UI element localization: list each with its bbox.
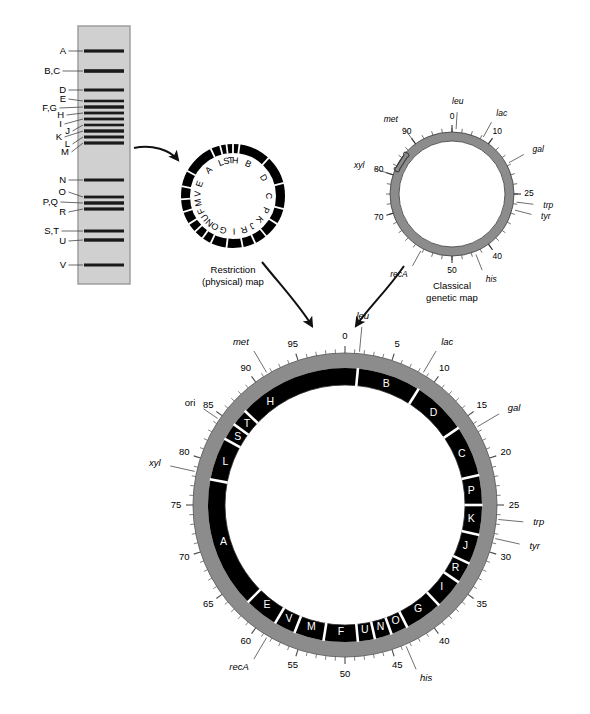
restriction-map-caption-line1: Restriction bbox=[211, 264, 256, 275]
genetic-gene-leader bbox=[476, 254, 482, 270]
restriction-fragment-label: H bbox=[232, 155, 239, 165]
integrated-black-inner-edge bbox=[225, 385, 465, 625]
integrated-gene-leader bbox=[478, 414, 500, 427]
gel-band-label: M bbox=[61, 146, 69, 157]
integrated-minor-tick bbox=[270, 368, 272, 372]
genetic-minor-tick bbox=[387, 204, 391, 205]
genetic-map-panel: 010254050708090leulacgaltrptyrhisrecAxyl… bbox=[353, 96, 553, 302]
genetic-gene-leader bbox=[509, 154, 524, 162]
figure-canvas: AB,CDEF,GHIJKLMNOP,QRS,TUV BDCPKJRIGONUF… bbox=[0, 0, 590, 714]
integrated-fragment-label: R bbox=[452, 561, 460, 573]
integrated-fragment-label: G bbox=[414, 602, 422, 614]
integrated-gene-leader bbox=[170, 466, 194, 471]
integrated-gene-label: tyr bbox=[529, 540, 540, 551]
integrated-minor-tick bbox=[418, 368, 420, 372]
restriction-cut-site bbox=[226, 238, 227, 248]
restriction-fragment-label: M bbox=[192, 198, 203, 207]
restriction-cut-site bbox=[181, 199, 191, 200]
integrated-minor-tick bbox=[238, 391, 241, 394]
gel-band bbox=[84, 118, 124, 121]
genetic-minor-tick bbox=[432, 253, 433, 257]
genetic-scale-number: 0 bbox=[450, 111, 455, 121]
genetic-scale-number: 70 bbox=[374, 212, 384, 222]
integrated-scale-number: 60 bbox=[240, 635, 251, 646]
gel-band-label: U bbox=[59, 235, 66, 246]
integrated-minor-tick bbox=[383, 354, 384, 358]
genetic-gene-leader bbox=[516, 202, 533, 204]
integrated-minor-tick bbox=[473, 421, 476, 423]
integrated-minor-tick bbox=[213, 586, 216, 588]
integrated-minor-tick bbox=[190, 485, 194, 486]
gel-band bbox=[84, 141, 124, 144]
integrated-minor-tick bbox=[449, 391, 452, 394]
gel-band bbox=[84, 49, 124, 52]
integrated-minor-tick bbox=[204, 570, 208, 572]
integrated-gene-label: gal bbox=[508, 402, 522, 413]
integrated-scale-number: 5 bbox=[395, 338, 400, 349]
genetic-gene-label: lac bbox=[496, 108, 508, 118]
integrated-major-tick bbox=[252, 628, 256, 634]
gel-band bbox=[84, 264, 124, 267]
integrated-major-tick bbox=[194, 456, 201, 458]
genetic-minor-tick bbox=[513, 184, 517, 185]
genetic-minor-tick bbox=[471, 253, 472, 257]
gel-band bbox=[84, 201, 124, 204]
arrow-gel-to-restriction-map bbox=[134, 147, 178, 160]
integrated-fragment-label: K bbox=[468, 512, 475, 524]
genetic-gene-leader bbox=[412, 251, 420, 266]
gel-lane bbox=[78, 26, 130, 284]
integrated-fragment-label: S bbox=[234, 430, 241, 442]
integrated-fragment-label: H bbox=[266, 395, 274, 407]
integrated-minor-tick bbox=[231, 609, 234, 612]
genetic-gene-label: gal bbox=[533, 144, 545, 154]
gel-band bbox=[84, 238, 124, 241]
integrated-minor-tick bbox=[410, 643, 412, 647]
integrated-scale-number: 70 bbox=[179, 551, 190, 562]
integrated-minor-tick bbox=[200, 448, 204, 449]
integrated-minor-tick bbox=[449, 616, 452, 619]
integrated-minor-tick bbox=[364, 656, 365, 660]
integrated-minor-tick bbox=[288, 360, 289, 364]
integrated-minor-tick bbox=[208, 578, 212, 580]
restriction-fragment-label: V bbox=[192, 190, 202, 197]
integrated-fragment-label: T bbox=[244, 417, 251, 429]
integrated-gene-label: met bbox=[233, 336, 249, 347]
integrated-cut-site bbox=[356, 624, 358, 642]
restriction-fragment-label: P bbox=[260, 205, 272, 214]
gel-band bbox=[84, 136, 124, 139]
integrated-minor-tick bbox=[288, 646, 289, 650]
integrated-minor-tick bbox=[213, 421, 216, 423]
gel-band-label: O bbox=[59, 186, 66, 197]
genetic-gene-leader bbox=[515, 210, 531, 214]
restriction-fragment-label: C bbox=[264, 193, 274, 200]
integrated-map-panel: BDCPKJRIGONUFMVEALSTH0510152025303540455… bbox=[148, 310, 544, 683]
genetic-minor-tick bbox=[502, 155, 505, 157]
integrated-gene-label: trp bbox=[533, 516, 544, 527]
integrated-fragment-label: U bbox=[361, 623, 369, 635]
integrated-gene-label: lac bbox=[441, 336, 453, 347]
integrated-minor-tick bbox=[486, 561, 490, 562]
integrated-major-tick bbox=[392, 650, 394, 657]
integrated-gene-label: xyl bbox=[148, 457, 162, 468]
flow-arrows bbox=[134, 147, 404, 326]
genetic-scale-number: 50 bbox=[447, 265, 457, 275]
genetic-minor-tick bbox=[387, 184, 391, 185]
integrated-minor-tick bbox=[279, 364, 281, 368]
integrated-scale-number: 75 bbox=[171, 499, 182, 510]
genetic-major-tick bbox=[488, 138, 492, 144]
integrated-minor-tick bbox=[456, 609, 459, 612]
integrated-scale-number: 50 bbox=[340, 668, 351, 679]
integrated-major-tick bbox=[490, 456, 497, 458]
integrated-minor-tick bbox=[246, 385, 249, 388]
genetic-minor-tick bbox=[393, 222, 397, 224]
restriction-fragment-label: E bbox=[194, 179, 205, 188]
integrated-minor-tick bbox=[442, 385, 445, 388]
integrated-minor-tick bbox=[194, 543, 198, 544]
genetic-minor-tick bbox=[432, 131, 433, 135]
integrated-fragment-label: N bbox=[377, 620, 385, 632]
genetic-minor-tick bbox=[462, 129, 463, 133]
gel-band bbox=[84, 124, 124, 127]
genetic-minor-tick bbox=[422, 135, 424, 139]
integrated-scale-number: 80 bbox=[179, 446, 190, 457]
integrated-minor-tick bbox=[261, 633, 263, 636]
